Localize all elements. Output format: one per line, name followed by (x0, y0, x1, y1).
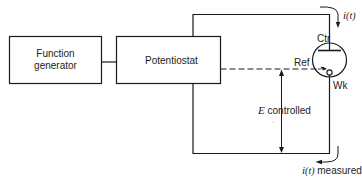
current-measured-text: measured (315, 165, 362, 176)
potentiostat-label: Potentiostat (116, 55, 221, 67)
potential-controlled-label: E controlled (258, 104, 311, 117)
potential-arrowhead-down-icon (279, 147, 284, 153)
function-generator-label: Function generator (9, 48, 102, 72)
current-in-label: i(t) (343, 9, 356, 22)
counter-electrode-wire (193, 15, 330, 51)
potentiostat-circuit-diagram (0, 0, 362, 180)
working-electrode-label: Wk (333, 80, 347, 92)
current-in-argument: (t) (346, 10, 355, 21)
current-in-arrowhead-icon (336, 22, 340, 28)
scan-artifact-dot (272, 121, 273, 122)
reference-arrowhead-icon (323, 67, 328, 71)
function-generator-label-line1: Function (9, 48, 102, 60)
function-generator-label-line2: generator (9, 60, 102, 72)
potential-arrowhead-up-icon (279, 70, 284, 77)
working-electrode-icon (327, 70, 332, 75)
potential-text: controlled (265, 105, 311, 116)
current-measured-argument: (t) (305, 165, 314, 176)
potential-symbol: E (258, 104, 265, 116)
reference-electrode-label: Ref (294, 57, 310, 69)
counter-electrode-label: Ctr (317, 33, 330, 45)
current-measured-label: i(t) measured (302, 164, 362, 177)
